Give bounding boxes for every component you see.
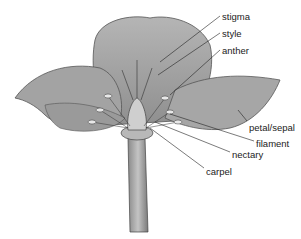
label-petal-sepal: petal/sepal <box>249 123 295 133</box>
label-anther: anther <box>222 46 249 56</box>
label-nectary: nectary <box>232 150 263 160</box>
label-carpel: carpel <box>206 167 232 177</box>
label-stigma: stigma <box>222 12 250 22</box>
flower-diagram: stigma style anther petal/sepal filament… <box>0 0 301 239</box>
label-style: style <box>222 29 242 39</box>
flower-illustration <box>0 0 301 239</box>
label-filament: filament <box>256 139 289 149</box>
stem <box>128 138 148 232</box>
